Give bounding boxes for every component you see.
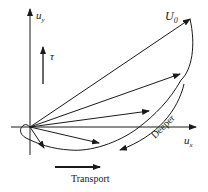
velocity-vector-depth-1 [30, 74, 180, 127]
x-axis-label: ux [184, 134, 194, 149]
surface-velocity-vector [30, 19, 190, 127]
surface-velocity-label: U0 [165, 9, 178, 25]
deeper-arrow [120, 84, 184, 150]
y-axis-label: uy [36, 9, 46, 24]
stress-label: τ [50, 50, 55, 62]
velocity-vector-depth-2 [30, 111, 149, 127]
ekman-spiral-diagram: uy ux τ U0 Deeper Transport [0, 0, 208, 192]
transport-label: Transport [71, 173, 110, 184]
velocity-vector-depth-3 [30, 127, 99, 143]
